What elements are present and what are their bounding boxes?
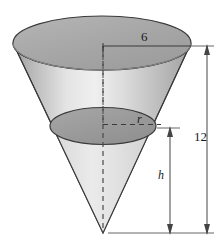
cone-diagram-svg [0,0,217,247]
liquid-radius-label: r [137,113,142,125]
cone-diagram-figure: 6 r h 12 [0,0,217,247]
top-radius-label: 6 [141,30,148,43]
total-height-label: 12 [194,130,207,143]
cone-body [0,16,217,247]
liquid-depth-label: h [158,169,164,181]
